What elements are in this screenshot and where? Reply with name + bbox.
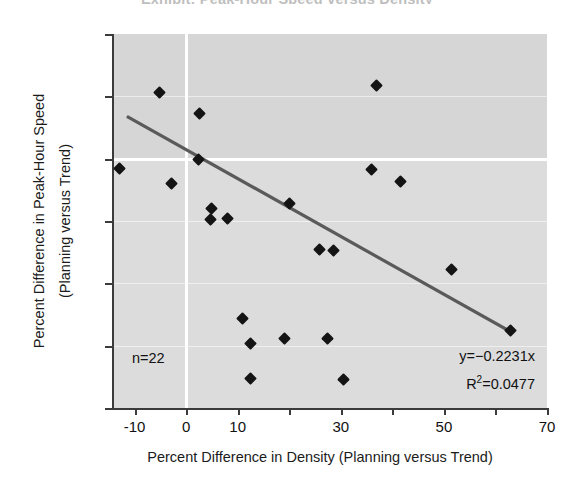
gridline-horizontal <box>114 158 547 161</box>
data-point <box>322 332 335 345</box>
data-point <box>244 372 257 385</box>
data-point <box>221 212 234 225</box>
data-point <box>327 245 340 258</box>
y-axis-tick <box>105 283 112 285</box>
data-point <box>192 154 205 167</box>
data-point <box>394 175 407 188</box>
r-squared-value: =0.0477 <box>482 376 535 392</box>
gridline-horizontal <box>114 96 547 97</box>
x-axis-tick <box>238 408 240 415</box>
data-point <box>165 177 178 190</box>
r-squared-annotation: R2=0.0477 <box>466 374 535 392</box>
data-point <box>445 263 458 276</box>
data-point <box>371 79 384 92</box>
x-axis-tick <box>392 408 394 415</box>
data-point <box>193 107 206 120</box>
y-axis-tick <box>105 221 112 223</box>
equation-annotation: y=−0.2231x <box>459 348 535 364</box>
gridline-vertical-zero <box>185 34 188 408</box>
data-point <box>244 337 257 350</box>
y-axis-tick <box>105 159 112 161</box>
data-point <box>505 324 518 337</box>
x-axis-tick <box>547 408 549 415</box>
data-point <box>283 197 296 210</box>
data-point <box>365 164 378 177</box>
x-axis-tick-label: 70 <box>517 419 574 435</box>
y-axis-label: Percent Difference in Peak-Hour Speed (P… <box>0 34 62 408</box>
x-axis-tick <box>186 408 188 415</box>
r-squared-prefix: R <box>466 376 476 392</box>
y-axis-tick <box>105 346 112 348</box>
x-axis-tick <box>444 408 446 415</box>
x-axis-tick <box>341 408 343 415</box>
data-point <box>206 202 219 215</box>
sample-size-annotation: n=22 <box>132 350 165 366</box>
gridline-horizontal <box>114 283 547 284</box>
x-axis-tick <box>289 408 291 415</box>
data-point <box>313 243 326 256</box>
scatter-plot-figure: Exhibit: Peak-Hour Speed versus Density … <box>0 0 574 492</box>
data-point <box>205 213 218 226</box>
x-axis-tick-label: 10 <box>208 419 268 435</box>
y-axis-tick <box>105 408 112 410</box>
x-axis-tick <box>495 408 497 415</box>
x-axis-tick <box>135 408 137 415</box>
gridline-horizontal <box>114 346 547 347</box>
x-axis-tick-label: 50 <box>414 419 474 435</box>
data-point <box>278 332 291 345</box>
y-axis-tick <box>105 96 112 98</box>
x-axis-label: Percent Difference in Density (Planning … <box>70 449 570 465</box>
plot-area: 1050-5-10-15-20-10010305070 n=22 y=−0.22… <box>112 34 547 410</box>
data-point <box>113 162 126 175</box>
data-point <box>236 312 249 325</box>
data-point <box>337 373 350 386</box>
x-axis-tick-label: 30 <box>311 419 371 435</box>
chart-title: Exhibit: Peak-Hour Speed versus Density <box>0 0 574 4</box>
gridline-horizontal <box>114 221 547 222</box>
y-axis-tick <box>105 34 112 36</box>
